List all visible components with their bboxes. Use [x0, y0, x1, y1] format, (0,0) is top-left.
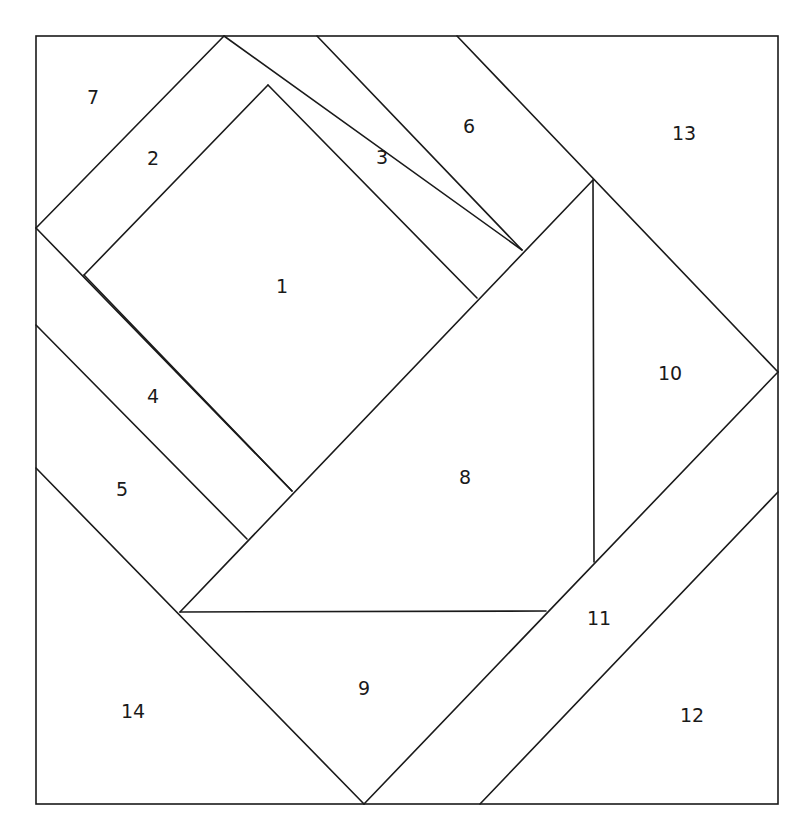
- piece-label-9: 9: [358, 679, 370, 698]
- piece-label-13: 13: [672, 124, 696, 143]
- seam-line: [84, 275, 292, 491]
- piece-label-3: 3: [376, 148, 388, 167]
- seam-line: [224, 36, 522, 250]
- seam-line: [84, 85, 268, 275]
- piece-label-5: 5: [116, 480, 128, 499]
- seam-line: [480, 492, 778, 804]
- piece-label-8: 8: [459, 468, 471, 487]
- seam-line: [593, 180, 594, 562]
- piece-label-4: 4: [147, 387, 159, 406]
- piece-label-1: 1: [276, 277, 288, 296]
- seam-line: [268, 85, 477, 298]
- seam-line: [457, 36, 778, 372]
- piece-label-6: 6: [463, 117, 475, 136]
- seam-line: [317, 36, 522, 250]
- piece-label-7: 7: [87, 88, 99, 107]
- seam-line: [180, 611, 546, 612]
- piece-label-12: 12: [680, 706, 704, 725]
- seam-line: [36, 36, 224, 228]
- piece-label-2: 2: [147, 149, 159, 168]
- piece-label-14: 14: [121, 702, 145, 721]
- seam-line: [180, 180, 593, 612]
- piece-label-10: 10: [658, 364, 682, 383]
- seam-line: [364, 372, 778, 804]
- seam-line: [36, 468, 364, 804]
- seam-line: [36, 325, 247, 539]
- piece-label-11: 11: [587, 609, 611, 628]
